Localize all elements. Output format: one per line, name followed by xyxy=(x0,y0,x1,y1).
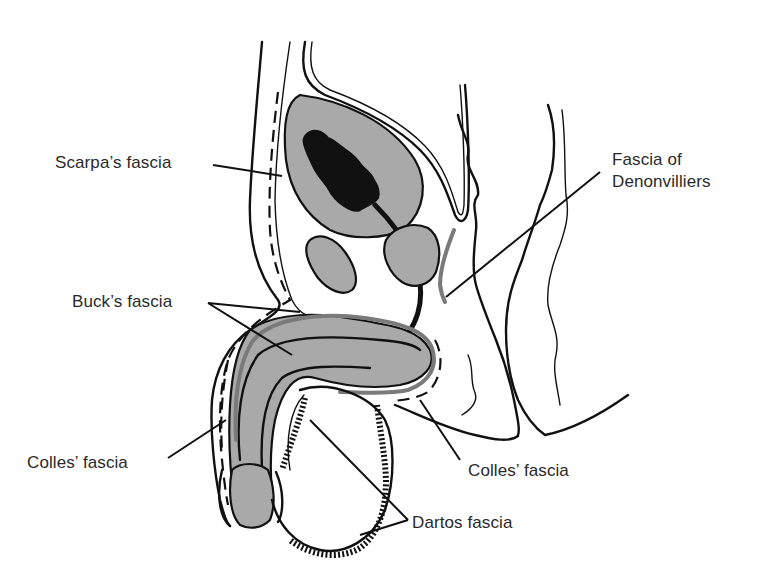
rectum-posterior-wall xyxy=(506,105,628,435)
prostate xyxy=(384,225,439,286)
label-scarpas-fascia: Scarpa’s fascia xyxy=(55,153,171,172)
rectum-anterior-wall xyxy=(458,115,519,435)
label-colles-fascia-right: Colles’ fascia xyxy=(468,461,569,480)
label-fascia-of-denonvilliers-line1: Fascia of xyxy=(612,150,682,169)
rectum-inner-wall xyxy=(548,110,568,405)
pubic-bone xyxy=(306,236,356,292)
label-bucks-fascia: Buck’s fascia xyxy=(72,292,172,311)
label-colles-fascia-left: Colles’ fascia xyxy=(27,453,128,472)
label-fascia-of-denonvilliers-line2: Denonvilliers xyxy=(612,172,711,191)
glans xyxy=(230,464,274,528)
fascia-diagram: Scarpa’s fascia Fascia of Denonvilliers … xyxy=(0,0,760,585)
label-dartos-fascia: Dartos fascia xyxy=(412,513,513,532)
leader-dartos xyxy=(310,420,408,535)
anal-canal-lumen xyxy=(462,355,476,415)
leader-colles-left xyxy=(168,420,226,458)
perineal-skin xyxy=(395,405,518,440)
